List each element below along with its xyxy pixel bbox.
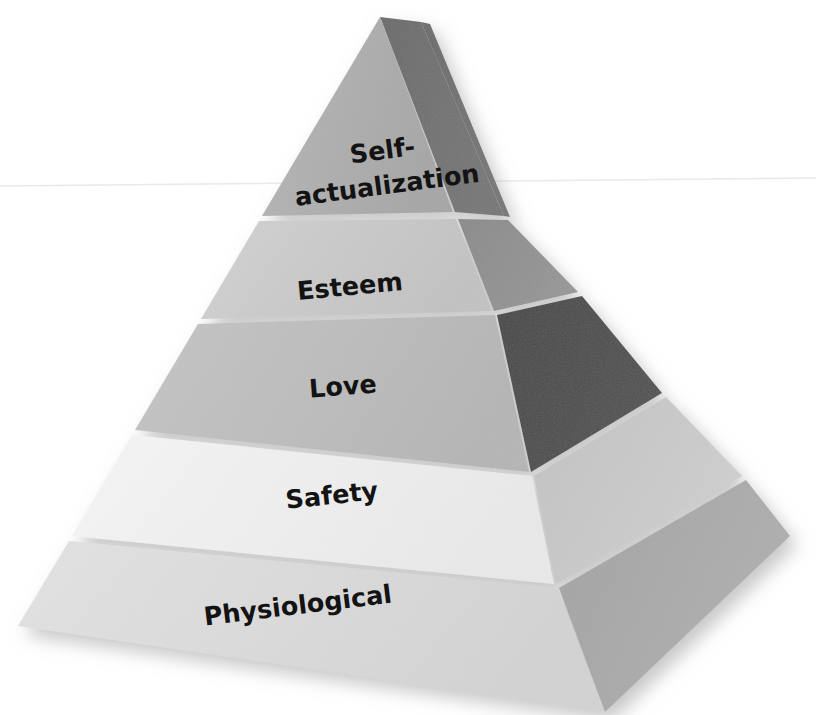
hierarchy-of-needs-pyramid: Self- actualization Esteem Love Safety P…	[0, 0, 816, 715]
pyramid-body	[18, 17, 790, 712]
pyramid-figure-canvas: Self- actualization Esteem Love Safety P…	[0, 0, 816, 715]
tier-label-love: Love	[308, 368, 378, 403]
front-band-esteem	[201, 219, 492, 319]
